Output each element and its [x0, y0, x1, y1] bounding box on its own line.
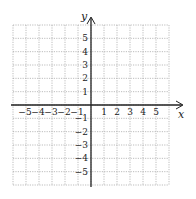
x-tick-label: 5 — [153, 107, 159, 117]
y-tick-label: 5 — [82, 33, 88, 43]
x-tick-label: −4 — [31, 107, 45, 117]
x-tick-labels: −5−4−3−2−112345 — [18, 107, 159, 117]
y-tick-label: 3 — [82, 60, 88, 70]
x-axis-label: x — [178, 108, 185, 121]
y-tick-label: 4 — [82, 47, 88, 57]
y-tick-label: −4 — [75, 153, 89, 163]
y-tick-label: −2 — [75, 127, 88, 137]
x-tick-label: 2 — [114, 107, 120, 117]
y-tick-label: −5 — [75, 167, 89, 177]
x-tick-label: 3 — [127, 107, 133, 117]
x-tick-label: 4 — [140, 107, 146, 117]
x-tick-label: 1 — [101, 107, 107, 117]
y-axis-label: y — [80, 10, 88, 23]
coordinate-plane: x y −5−4−3−2−112345 54321−1−2−3−4−5 — [0, 0, 196, 199]
x-tick-label: −2 — [57, 107, 70, 117]
y-tick-label: −1 — [75, 113, 88, 123]
y-tick-label: 2 — [82, 73, 88, 83]
y-tick-label: 1 — [82, 87, 88, 97]
x-tick-label: −5 — [18, 107, 32, 117]
x-tick-label: −3 — [44, 107, 58, 117]
y-tick-label: −3 — [75, 140, 89, 150]
